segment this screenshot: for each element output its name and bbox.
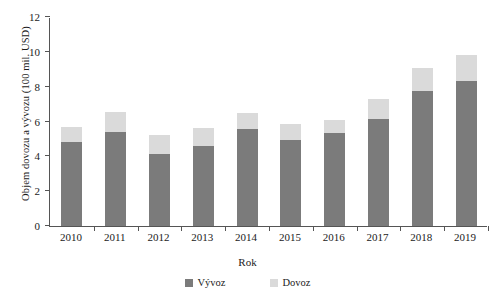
bar-segment-export [105, 132, 126, 226]
bar-group [105, 112, 126, 226]
y-axis-tick-label: 8 [35, 81, 41, 93]
chart-legend: VývozDovoz [0, 277, 495, 288]
bar-segment-import [193, 128, 214, 145]
bar-group [368, 99, 389, 226]
x-axis-tick [488, 226, 489, 231]
bar-segment-import [105, 112, 126, 132]
bar-series-container [50, 18, 487, 226]
bar-group [149, 135, 170, 226]
y-axis-tick-label: 10 [29, 46, 40, 58]
legend-label: Vývoz [198, 277, 226, 288]
y-axis-tick-label: 2 [35, 185, 41, 197]
bar-segment-import [61, 127, 82, 142]
legend-swatch-export-icon [185, 279, 193, 287]
x-axis-tick [138, 226, 139, 231]
x-axis-tick [357, 226, 358, 231]
x-axis-tick [269, 226, 270, 231]
bar-segment-import [237, 113, 258, 130]
bar-segment-export [61, 142, 82, 226]
x-axis-tick [181, 226, 182, 231]
x-axis-tick-label: 2011 [104, 231, 126, 243]
bar-group [193, 128, 214, 226]
bar-segment-export [368, 119, 389, 226]
bar-segment-export [149, 154, 170, 226]
plot-area: 024681012 [49, 18, 487, 227]
y-axis-tick-label: 6 [35, 116, 41, 128]
bar-segment-import [324, 120, 345, 133]
x-axis-tick-label: 2019 [454, 231, 476, 243]
bar-segment-export [280, 140, 301, 226]
x-axis-tick-label: 2015 [279, 231, 301, 243]
x-axis-tick [313, 226, 314, 231]
x-axis-tick-label: 2010 [60, 231, 82, 243]
y-axis-tick: 12 [45, 16, 50, 17]
x-axis-tick-label: 2013 [191, 231, 213, 243]
legend-swatch-import-icon [270, 279, 278, 287]
bar-segment-export [456, 81, 477, 226]
bar-group [456, 55, 477, 226]
bar-group [61, 127, 82, 226]
x-axis-tick [444, 226, 445, 231]
bar-segment-export [412, 91, 433, 226]
x-axis-tick-label: 2012 [148, 231, 170, 243]
x-axis-title: Rok [0, 256, 495, 268]
x-axis-tick [225, 226, 226, 231]
y-axis-tick-label: 4 [35, 150, 41, 162]
legend-item: Dovoz [270, 277, 311, 288]
y-axis-title: Objem dovozu a vývozu (100 mil. USD) [20, 0, 31, 229]
bar-group [412, 68, 433, 226]
legend-label: Dovoz [283, 277, 311, 288]
x-axis-tick-label: 2017 [367, 231, 389, 243]
x-axis-tick [94, 226, 95, 231]
bar-segment-export [324, 133, 345, 226]
bar-segment-import [149, 135, 170, 153]
bar-segment-import [456, 55, 477, 81]
x-axis-tick-label: 2014 [235, 231, 257, 243]
y-axis-tick-label: 12 [29, 11, 40, 23]
y-axis-tick-label: 0 [35, 220, 41, 232]
bar-segment-import [280, 124, 301, 140]
bar-segment-import [412, 68, 433, 92]
bar-segment-import [368, 99, 389, 119]
x-axis-tick [400, 226, 401, 231]
bar-chart: Objem dovozu a vývozu (100 mil. USD) 024… [0, 0, 495, 296]
bar-group [237, 113, 258, 226]
x-axis-tick-label: 2016 [323, 231, 345, 243]
bar-segment-export [193, 146, 214, 226]
bar-group [280, 124, 301, 226]
x-axis-tick-label: 2018 [410, 231, 432, 243]
bar-segment-export [237, 129, 258, 226]
bar-group [324, 120, 345, 226]
legend-item: Vývoz [185, 277, 226, 288]
